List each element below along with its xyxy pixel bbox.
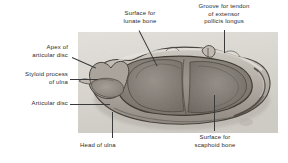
leader-groove-for-tendon — [224, 30, 225, 53]
label-groove-for-tendon: Groove for tendon of extensor pollicis l… — [186, 3, 262, 26]
leader-surface-for-scaphoid-bone — [214, 95, 215, 131]
specimen-drawing — [78, 32, 278, 133]
label-surface-for-lunate-bone: Surface for lunate bone — [108, 10, 172, 25]
label-styloid-process-of-ulna: Styloid process of ulna — [2, 71, 68, 86]
label-articular-disc: Articular disc — [2, 100, 68, 108]
specimen-photograph — [78, 32, 278, 133]
label-head-of-ulna: Head of ulna — [80, 142, 150, 150]
label-surface-for-scaphoid-bone: Surface for scaphoid bone — [180, 134, 250, 149]
anatomical-figure: Apex of articular disc Styloid process o… — [0, 0, 288, 163]
leader-articular-disc — [70, 104, 110, 105]
leader-styloid-process-of-ulna — [70, 79, 98, 80]
leader-head-of-ulna — [112, 112, 113, 138]
label-apex-of-articular-disc: Apex of articular disc — [2, 44, 68, 59]
